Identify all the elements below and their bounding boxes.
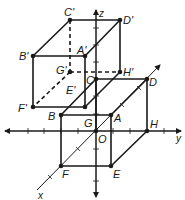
vertex-label: E'	[66, 84, 76, 96]
cube-translation-diagram: xyzA'B'C'D'E'F'G'H'ABCDEFGHO	[0, 0, 185, 200]
vertex-label: G'	[56, 64, 68, 76]
vertex-dot	[59, 113, 64, 118]
vertex-label: F'	[18, 102, 28, 114]
vertex-dot	[68, 70, 73, 75]
vertex-label: H	[150, 118, 158, 130]
vertex-dot	[118, 18, 123, 23]
vertex-dot	[109, 113, 114, 118]
cube-edge	[85, 20, 120, 56]
x-axis-label: x	[37, 190, 44, 200]
translated-cube	[31, 18, 123, 110]
vertex-dot	[31, 54, 36, 59]
vertex-label: E	[113, 168, 121, 180]
vertex-dot	[118, 70, 123, 75]
vertex-dot	[145, 129, 150, 134]
vertex-label: F	[62, 168, 70, 180]
vertex-label: C'	[64, 6, 75, 18]
vertex-dot	[83, 105, 88, 110]
vertex-labels: xyzA'B'C'D'E'F'G'H'ABCDEFGHO	[18, 6, 182, 200]
vertex-dot	[31, 105, 36, 110]
coordinate-axes	[5, 10, 181, 197]
vertex-label: H'	[123, 66, 134, 78]
vertex-label: A	[113, 112, 121, 124]
cube-edge	[111, 131, 147, 166]
y-axis-label: y	[175, 133, 182, 144]
vertex-label: C	[86, 74, 94, 86]
vertex-label: G	[84, 117, 93, 129]
vertex-label: B	[48, 110, 55, 122]
vertex-label: O	[98, 133, 107, 145]
vertex-label: B'	[19, 50, 29, 62]
cube-edge	[111, 79, 147, 115]
vertex-dot	[68, 18, 73, 23]
z-axis-label: z	[98, 8, 104, 19]
vertex-label: D'	[123, 14, 134, 26]
vertex-label: D	[149, 76, 157, 88]
vertex-dot	[94, 77, 99, 82]
cube-edge	[33, 20, 70, 56]
vertex-label: A'	[76, 44, 87, 56]
hidden-edge	[33, 72, 70, 107]
